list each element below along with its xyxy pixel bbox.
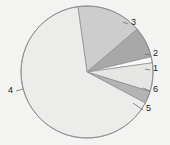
pie-label-2: 2 — [153, 48, 158, 58]
pie-chart-canvas: 321654 — [0, 0, 170, 145]
pie-label-6: 6 — [153, 84, 158, 94]
pie-label-5: 5 — [146, 103, 151, 113]
pie-label-4: 4 — [8, 85, 13, 95]
pie-label-1: 1 — [153, 63, 158, 73]
pie-label-3: 3 — [131, 17, 136, 27]
leader-line-4 — [16, 89, 23, 91]
pie-chart: 321654 — [0, 0, 170, 145]
